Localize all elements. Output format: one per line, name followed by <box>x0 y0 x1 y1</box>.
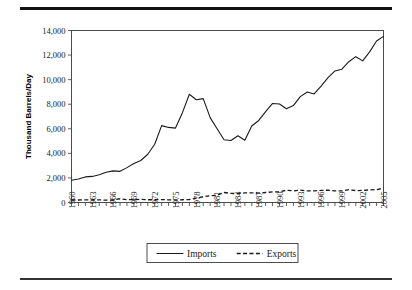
chart-legend: ImportsExports <box>147 244 298 263</box>
y-tick-label: 10,000 <box>42 75 65 85</box>
y-tick-label: 14,000 <box>42 26 65 36</box>
x-tick-label: 2002 <box>358 192 368 209</box>
plot-frame <box>72 31 384 203</box>
x-tick-label: 1987 <box>254 192 264 209</box>
series-imports <box>72 36 384 180</box>
series-group <box>72 36 384 200</box>
x-tick-label: 1996 <box>316 192 326 209</box>
x-tick-label: 1978 <box>192 192 202 209</box>
x-tick-label: 1993 <box>296 192 306 209</box>
y-tick-label: 6,000 <box>46 124 65 134</box>
y-tick-label: 0 <box>61 198 65 208</box>
y-tick-label: 8,000 <box>46 99 65 109</box>
y-axis-ticks: 02,0004,0006,0008,00010,00012,00014,000 <box>42 26 71 208</box>
y-tick-label: 4,000 <box>46 148 65 158</box>
legend-label-imports: Imports <box>187 249 217 259</box>
y-tick-label: 12,000 <box>42 50 65 60</box>
y-axis-title: Thousand Barrels/Day <box>24 73 33 158</box>
line-chart: 02,0004,0006,0008,00010,00012,00014,000 … <box>0 0 412 290</box>
legend-label-exports: Exports <box>267 249 297 259</box>
x-tick-label: 1990 <box>275 192 285 209</box>
figure-container: 02,0004,0006,0008,00010,00012,00014,000 … <box>0 0 412 290</box>
x-tick-label: 1999 <box>337 192 347 209</box>
y-tick-label: 2,000 <box>46 173 65 183</box>
